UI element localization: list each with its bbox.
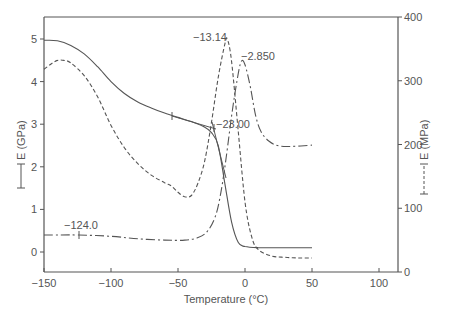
dma-chart: −150−100−50050100 012345 0100200300400 T… (0, 0, 453, 316)
x-ticks: −150−100−50050100 (32, 268, 389, 289)
annotation-peak-loss: −13.14 (193, 31, 227, 43)
x-tick-label: −150 (32, 277, 57, 289)
x-tick-label: 0 (242, 277, 248, 289)
y-left-tick-label: 3 (31, 118, 37, 130)
x-tick-label: −100 (99, 277, 124, 289)
y-right-title-text: E (MPa) (418, 120, 430, 160)
y-left-tick-label: 2 (31, 161, 37, 173)
x-tick-label: 50 (306, 277, 318, 289)
y-right-tick-label: 0 (404, 266, 410, 278)
axes (44, 17, 398, 272)
tangent-glassy (172, 116, 216, 129)
annotation-124: −124.0 (64, 219, 98, 231)
annotation-peak-dashdot: −2.850 (241, 50, 275, 62)
annotation-onset: −23.00 (216, 118, 250, 130)
y-left-title-text: E (GPa) (15, 120, 27, 160)
y-right-tick-label: 300 (404, 75, 422, 87)
x-tick-label: 100 (370, 277, 388, 289)
annotations: −13.14 −2.850 −23.00 −124.0 (64, 31, 275, 231)
y-left-tick-label: 0 (31, 246, 37, 258)
y-left-tick-label: 1 (31, 203, 37, 215)
y-left-tick-label: 4 (31, 76, 37, 88)
y-left-tick-label: 5 (31, 33, 37, 45)
y-right-title: E (MPa) (418, 120, 430, 194)
y-left-ticks: 012345 (31, 33, 44, 258)
x-axis-title: Temperature (°C) (184, 293, 268, 305)
series-dashdot (44, 60, 312, 240)
x-tick-label: −50 (169, 277, 188, 289)
y-right-tick-label: 100 (404, 202, 422, 214)
y-left-title: E (GPa) (15, 120, 27, 188)
y-right-tick-label: 400 (404, 11, 422, 23)
series-solid (44, 40, 312, 248)
